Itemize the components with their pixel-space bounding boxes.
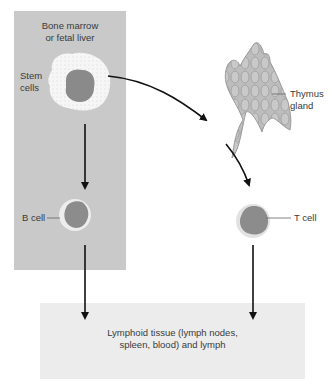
thymus-label-line1: Thymus — [290, 88, 324, 100]
t-cell — [236, 204, 270, 238]
thymus-label: Thymus gland — [290, 88, 324, 112]
stem-cells-label-line2: cells — [20, 82, 42, 94]
lymphoid-label-line2: spleen, blood) and lymph — [40, 339, 305, 351]
b-cell — [59, 199, 91, 231]
arrow-stem-to-thymus — [108, 76, 206, 120]
stem-cells-label-line1: Stem — [20, 70, 42, 82]
thymus-label-line2: gland — [290, 100, 324, 112]
bone-marrow-title-line2: or fetal liver — [14, 32, 126, 44]
b-cell-label: B cell — [22, 212, 45, 224]
stem-cells-label: Stem cells — [20, 70, 42, 94]
bone-marrow-title: Bone marrow or fetal liver — [14, 20, 126, 44]
t-cell-label: T cell — [294, 212, 317, 224]
bone-marrow-title-line1: Bone marrow — [14, 20, 126, 32]
lymphoid-label-line1: Lymphoid tissue (lymph nodes, — [40, 327, 305, 339]
lymphoid-tissue-label: Lymphoid tissue (lymph nodes, spleen, bl… — [40, 327, 305, 351]
stem-cell — [48, 53, 110, 111]
thymus-gland-shape — [225, 43, 291, 158]
arrow-thymus-to-tcell — [226, 144, 249, 185]
